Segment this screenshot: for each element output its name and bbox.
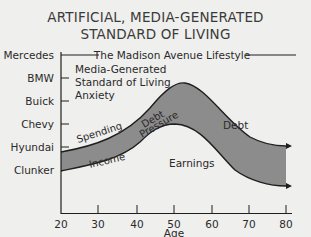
- x-label-20: 20: [54, 218, 67, 230]
- spending-arrow-icon: [286, 143, 292, 149]
- x-label-70: 70: [242, 218, 255, 230]
- madison-avenue-label: The Madison Avenue Lifestyle: [93, 49, 250, 61]
- media-anxiety-line-3: Anxiety: [75, 89, 115, 101]
- debt-label: Debt: [223, 119, 248, 131]
- y-label-bmw: BMW: [27, 72, 54, 84]
- y-label-hyundai: Hyundai: [11, 141, 54, 153]
- earnings-label: Earnings: [169, 157, 215, 169]
- y-ticks: [61, 78, 69, 147]
- x-axis-title: Age: [164, 227, 184, 237]
- y-label-buick: Buick: [25, 95, 55, 107]
- x-label-30: 30: [91, 218, 104, 230]
- x-ticks: [98, 205, 286, 213]
- y-label-chevy: Chevy: [21, 118, 54, 130]
- x-label-40: 40: [130, 218, 143, 230]
- x-label-80: 80: [279, 218, 292, 230]
- media-anxiety-line-2: Standard of Living: [75, 76, 171, 88]
- x-label-60: 60: [205, 218, 218, 230]
- income-arrow-icon: [286, 183, 292, 189]
- y-label-mercedes: Mercedes: [4, 49, 54, 61]
- chart-plot: Mercedes BMW Buick Chevy Hyundai Clunker…: [0, 0, 311, 237]
- media-anxiety-line-1: Media-Generated: [75, 63, 166, 75]
- y-label-clunker: Clunker: [14, 164, 55, 176]
